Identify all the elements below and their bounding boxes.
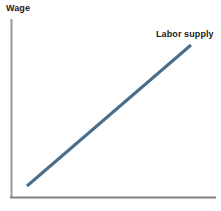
supply-curve-chart: Wage Labor supply <box>0 0 221 211</box>
labor-supply-line <box>27 45 191 186</box>
plot-area <box>0 0 221 211</box>
